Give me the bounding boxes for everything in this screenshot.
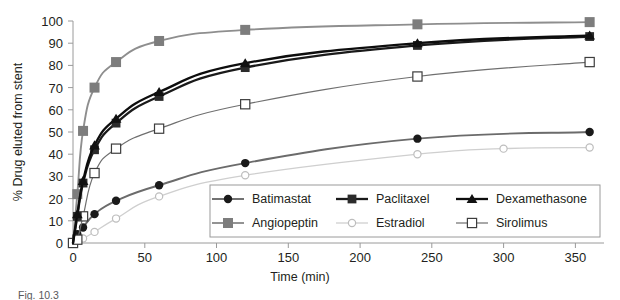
y-tick-label: 40: [49, 147, 63, 162]
legend-marker: [348, 219, 355, 226]
x-axis-title: Time (min): [270, 270, 329, 284]
data-point: [155, 181, 163, 189]
legend-label: Angiopeptin: [252, 216, 318, 230]
data-point: [240, 25, 250, 35]
data-point: [111, 144, 120, 153]
y-tick-label: 70: [49, 81, 63, 96]
data-point: [156, 193, 163, 200]
y-tick-label: 30: [49, 169, 63, 184]
x-tick-label: 350: [565, 250, 587, 265]
data-point: [242, 172, 249, 179]
data-point: [78, 126, 88, 136]
y-tick-label: 60: [49, 103, 63, 118]
data-point: [585, 128, 593, 136]
y-tick-label: 90: [49, 36, 63, 51]
data-point: [413, 134, 421, 142]
legend-label: Estradiol: [376, 216, 425, 230]
drug-elution-line-chart: 100 90 80 70 60 50 40 30 20 10 0 0 50: [0, 0, 620, 300]
x-tick-label: 150: [277, 250, 299, 265]
y-tick-label: 20: [49, 192, 63, 207]
data-point: [112, 197, 120, 205]
x-tick-label: 50: [138, 250, 152, 265]
data-point: [112, 215, 119, 222]
x-tick-label: 100: [206, 250, 228, 265]
y-tick-label: 0: [56, 236, 63, 251]
data-point: [154, 36, 164, 46]
legend-marker: [467, 218, 476, 227]
data-point: [586, 144, 593, 151]
data-point: [90, 210, 98, 218]
legend-marker: [223, 218, 233, 228]
data-point: [413, 72, 422, 81]
x-tick-label: 250: [421, 250, 443, 265]
data-point: [500, 145, 507, 152]
data-point: [585, 57, 594, 66]
x-tick-label: 0: [69, 250, 76, 265]
data-point: [241, 159, 249, 167]
figure-caption: Fig. 10.3: [18, 289, 59, 300]
legend-label: Paclitaxel: [376, 192, 430, 206]
legend-label: Sirolimus: [496, 216, 547, 230]
legend-marker: [224, 195, 232, 203]
y-tick-label: 100: [41, 14, 63, 29]
data-point: [90, 168, 99, 177]
chart-legend: BatimastatPaclitaxelDexamethasoneAngiope…: [210, 185, 600, 237]
legend-label: Dexamethasone: [496, 192, 587, 206]
legend-entry-sirolimus[interactable]: Sirolimus: [456, 216, 547, 230]
y-tick-label: 10: [49, 214, 63, 229]
data-point: [414, 151, 421, 158]
data-point: [91, 228, 98, 235]
data-point: [90, 83, 100, 93]
x-tick-label: 200: [349, 250, 371, 265]
y-tick-label: 50: [49, 125, 63, 140]
y-tick-label: 80: [49, 58, 63, 73]
data-point: [111, 57, 121, 67]
data-point: [585, 17, 595, 27]
legend-marker: [348, 195, 357, 204]
data-point: [241, 100, 250, 109]
data-point: [412, 19, 422, 29]
figure-container: 100 90 80 70 60 50 40 30 20 10 0 0 50: [0, 0, 620, 300]
y-axis-title: % Drug eluted from stent: [11, 62, 25, 201]
legend-entry-angiopeptin[interactable]: Angiopeptin: [212, 216, 318, 230]
x-tick-label: 300: [493, 250, 515, 265]
data-point: [155, 124, 164, 133]
legend-label: Batimastat: [252, 192, 312, 206]
